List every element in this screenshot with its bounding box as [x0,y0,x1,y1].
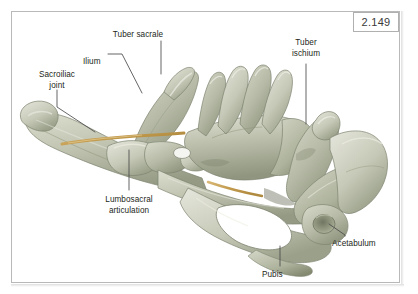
label-lumbosacral-articulation: Lumbosacral articulation [74,195,184,216]
label-acetabulum: Acetabulum [332,239,376,250]
label-sacroiliac-joint: Sacroiliac joint [20,70,94,91]
labels-layer: Tuber sacrale Ilium Sacroiliac joint Tub… [0,0,418,294]
label-pubis: Pubis [262,270,283,281]
label-tuber-sacrale: Tuber sacrale [88,30,188,41]
figure-root: 2.149 [0,0,418,294]
label-tuber-ischium: Tuber ischium [271,38,341,59]
label-ilium: Ilium [83,57,101,68]
